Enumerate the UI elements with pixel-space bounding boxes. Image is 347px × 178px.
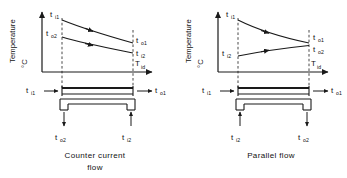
label-to2-bottom-sub-counter: o2 bbox=[60, 137, 66, 143]
caption-line1-counter: Counter current bbox=[65, 151, 126, 160]
label-ti1-curve-sub-counter: i1 bbox=[55, 14, 59, 20]
label-to2-curve-sub-counter: o2 bbox=[51, 33, 57, 39]
label-ti1-inlet-sub-counter: i1 bbox=[31, 90, 35, 96]
x-axis-label-parallel: T bbox=[311, 59, 316, 68]
label-ti2-bottom-sub-parallel: i2 bbox=[236, 137, 240, 143]
x-axis-label-sub-parallel: id bbox=[317, 64, 321, 70]
caption-line1-parallel: Parallel flow bbox=[247, 151, 295, 160]
figure-canvas: Temperature °C T id t i1 t o2 t o1 t i2 bbox=[0, 0, 347, 178]
label-to2-bottom-sub-parallel: o2 bbox=[303, 137, 309, 143]
x-axis-label-sub-counter: id bbox=[141, 64, 145, 70]
label-to2-curve-sub-parallel: o2 bbox=[318, 49, 324, 55]
label-to1-outlet-sub-parallel: o1 bbox=[336, 90, 342, 96]
label-ti1-inlet-sub-parallel: i1 bbox=[207, 90, 211, 96]
y-axis-unit-counter: °C bbox=[20, 59, 29, 68]
y-axis-label-parallel: Temperature bbox=[184, 19, 193, 63]
heat-exchanger-figure: Temperature °C T id t i1 t o2 t o1 t i2 bbox=[0, 0, 347, 178]
label-ti1-curve-sub-parallel: i1 bbox=[231, 14, 235, 20]
y-axis-unit-parallel: °C bbox=[196, 59, 205, 68]
label-ti2-curve-sub-counter: i2 bbox=[141, 53, 145, 59]
y-axis-label-counter: Temperature bbox=[8, 19, 17, 63]
label-to1-outlet-sub-counter: o1 bbox=[160, 90, 166, 96]
caption-line2-counter: flow bbox=[87, 163, 103, 172]
label-to1-curve-sub-counter: o1 bbox=[141, 40, 147, 46]
label-ti2-bottom-sub-counter: i2 bbox=[127, 137, 131, 143]
label-to1-curve-sub-parallel: o1 bbox=[318, 37, 324, 43]
label-ti2-curve-sub-parallel: i2 bbox=[227, 53, 231, 59]
x-axis-label-counter: T bbox=[135, 59, 140, 68]
